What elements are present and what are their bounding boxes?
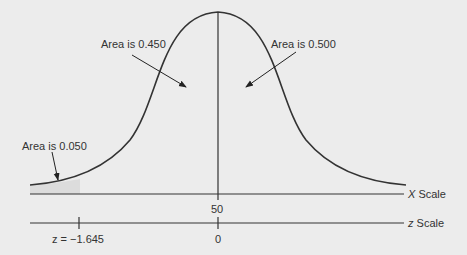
label-area-0450: Area is 0.450: [101, 38, 166, 50]
x-mean-tick-label: 50: [211, 203, 223, 215]
x-scale-label: X Scale: [407, 188, 446, 200]
z-crit-tick-label: z = −1.645: [52, 233, 104, 245]
label-area-0500: Area is 0.500: [271, 38, 336, 50]
z-scale-label: z Scale: [407, 217, 444, 229]
normal-curve-diagram: Area is 0.450 Area is 0.500 Area is 0.05…: [0, 0, 467, 255]
z-zero-tick-label: 0: [215, 233, 221, 245]
arrow-0450: [132, 55, 186, 87]
arrow-0050: [52, 152, 58, 180]
label-area-0050: Area is 0.050: [22, 140, 87, 152]
